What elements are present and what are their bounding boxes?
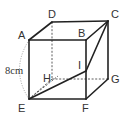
vertex-label-H: H [43,72,51,84]
cube-diagram: A D C B I H G E F 8cm [0,0,127,117]
edge-BC [86,21,108,40]
edge-FG [86,79,108,99]
segment-EI [29,71,86,99]
vertex-label-G: G [111,73,120,85]
vertex-label-B: B [78,27,85,39]
edge-length-label: 8cm [5,65,23,76]
vertex-label-D: D [48,8,56,20]
vertex-label-F: F [82,102,89,114]
vertex-label-E: E [18,102,25,114]
vertex-label-A: A [18,29,26,41]
edge-DC [52,21,108,22]
vertex-label-I: I [78,59,81,71]
vertex-label-C: C [111,8,119,20]
segment-IC [86,21,108,71]
edge-AD [29,22,52,40]
